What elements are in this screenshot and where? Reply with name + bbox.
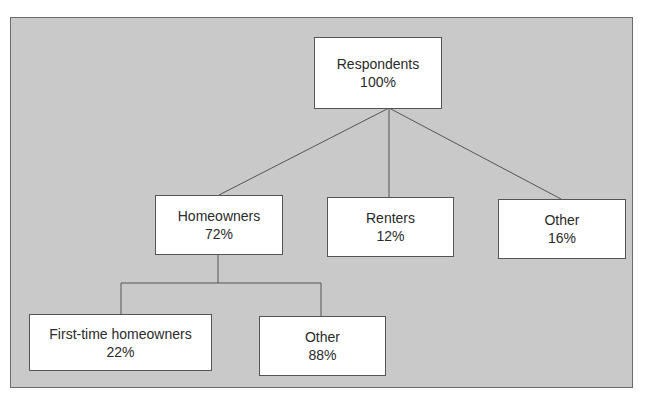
- node-value: 12%: [376, 227, 404, 245]
- node-label: Other: [544, 211, 579, 229]
- node-other-respondents: Other 16%: [498, 199, 626, 259]
- node-label: Renters: [366, 209, 415, 227]
- node-other-homeowners: Other 88%: [259, 316, 386, 376]
- link-respondents-homeowners: [219, 108, 389, 195]
- node-label: Respondents: [337, 55, 420, 73]
- node-label: First-time homeowners: [49, 325, 191, 343]
- node-value: 72%: [205, 225, 233, 243]
- node-homeowners: Homeowners 72%: [155, 195, 283, 255]
- node-value: 16%: [548, 229, 576, 247]
- node-value: 88%: [308, 346, 336, 364]
- node-label: Homeowners: [178, 207, 260, 225]
- node-respondents: Respondents 100%: [314, 37, 442, 109]
- node-renters: Renters 12%: [327, 197, 454, 257]
- node-value: 22%: [106, 343, 134, 361]
- node-label: Other: [305, 328, 340, 346]
- link-respondents-other: [389, 108, 561, 199]
- node-first-time-homeowners: First-time homeowners 22%: [29, 314, 212, 371]
- node-value: 100%: [360, 73, 396, 91]
